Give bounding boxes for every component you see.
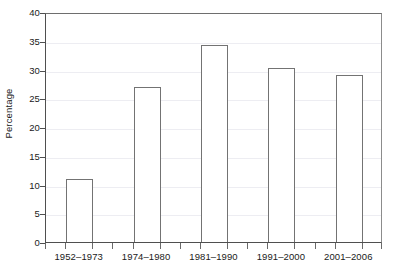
x-axis-tick-mark (65, 243, 66, 249)
x-axis-tick-labels: 1952–19731974–19801981–19901991–20002001… (45, 251, 382, 267)
bar (268, 68, 295, 242)
y-axis-tick-label: 15 (20, 151, 40, 162)
x-axis-tick-mark (362, 243, 363, 249)
y-axis-tick-label: 25 (20, 93, 40, 104)
x-axis-tick-mark (45, 243, 46, 249)
y-axis-tick-label: 30 (20, 65, 40, 76)
x-axis-tick-mark (200, 243, 201, 249)
x-axis-tick-mark (112, 243, 113, 249)
y-axis-tick-labels: 4035302520151050 (18, 0, 40, 271)
y-axis-tick-label: 20 (20, 122, 40, 133)
x-axis-tick-label: 1981–1990 (180, 251, 247, 262)
bar-chart-figure: Percentage 4035302520151050 1952–1973197… (0, 0, 395, 271)
y-axis-label: Percentage (3, 54, 14, 174)
y-axis-label-container: Percentage (0, 0, 20, 243)
x-axis-tick-marks (45, 243, 382, 251)
x-axis-tick-label: 1991–2000 (247, 251, 314, 262)
x-axis-tick-mark (160, 243, 161, 249)
x-axis-tick-mark (180, 243, 181, 249)
x-axis-tick-label: 1952–1973 (45, 251, 112, 262)
x-axis-tick-mark (92, 243, 93, 249)
y-axis-tick-label: 35 (20, 36, 40, 47)
x-axis-tick-label: 2001–2006 (315, 251, 382, 262)
x-axis-tick-mark (294, 243, 295, 249)
x-axis-tick-mark (381, 243, 382, 249)
x-axis-tick-mark (335, 243, 336, 249)
x-axis-tick-label: 1974–1980 (112, 251, 179, 262)
x-axis-tick-mark (133, 243, 134, 249)
x-axis-tick-mark (247, 243, 248, 249)
y-axis-tick-label: 5 (20, 208, 40, 219)
bar (201, 45, 228, 242)
y-axis-tick-label: 0 (20, 237, 40, 248)
y-axis-tick-label: 40 (20, 7, 40, 18)
x-axis-tick-mark (227, 243, 228, 249)
y-axis-tick-label: 10 (20, 180, 40, 191)
bar (134, 87, 161, 242)
x-axis-tick-mark (267, 243, 268, 249)
bar (66, 179, 93, 242)
bar (336, 75, 363, 242)
bar-series (46, 14, 381, 242)
x-axis-tick-mark (315, 243, 316, 249)
plot-area (45, 13, 382, 243)
